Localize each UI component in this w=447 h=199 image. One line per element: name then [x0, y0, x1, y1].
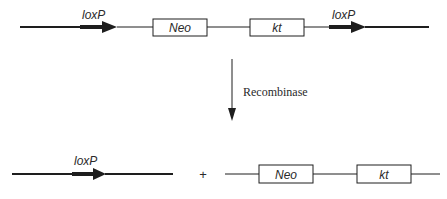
plus-sign: +: [199, 167, 207, 182]
loxp-arrow-icon: [72, 168, 106, 180]
product-left: loxP: [12, 154, 173, 180]
loxp-label-left: loxP: [82, 8, 105, 22]
loxp-label-right: loxP: [332, 8, 355, 22]
loxp-label: loxP: [74, 154, 97, 168]
down-arrow-icon: [228, 108, 236, 121]
product-right-excised: Neo kt: [225, 165, 440, 183]
recombinase-label: Recombinase: [243, 85, 308, 99]
neo-label: Neo: [275, 168, 297, 182]
loxp-arrow-icon-right: [329, 21, 366, 33]
cre-lox-recombination-diagram: loxP Neo kt loxP Recombinase loxP + Neo …: [0, 0, 447, 199]
loxp-arrow-icon-left: [80, 21, 117, 33]
kt-label: kt: [379, 168, 389, 182]
neo-label: Neo: [169, 21, 191, 35]
kt-label: kt: [272, 21, 282, 35]
reaction-arrow: Recombinase: [228, 59, 308, 121]
top-construct: loxP Neo kt loxP: [20, 8, 429, 36]
